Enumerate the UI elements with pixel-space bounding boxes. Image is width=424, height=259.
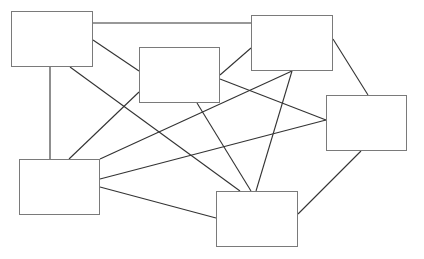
edge-b-d [220, 79, 326, 120]
edge-e-f [100, 187, 216, 218]
edge-d-f [298, 151, 361, 214]
edge-c-d [333, 39, 368, 95]
edge-c-f [256, 71, 292, 191]
node-f [216, 191, 298, 247]
node-a [11, 11, 93, 67]
edge-b-e [69, 92, 139, 159]
node-e [19, 159, 100, 215]
node-d [326, 95, 407, 151]
node-c [251, 15, 333, 71]
node-b [139, 47, 220, 103]
network-diagram [0, 0, 424, 259]
edge-b-c [220, 48, 251, 75]
edge-a-b [93, 40, 139, 71]
